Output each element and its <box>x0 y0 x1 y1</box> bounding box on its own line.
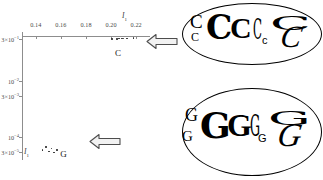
data-point <box>53 152 55 154</box>
data-point <box>51 148 53 150</box>
y-tick-mark <box>19 137 23 138</box>
y-tick-label: 10−2 <box>0 77 19 85</box>
data-point <box>48 151 50 153</box>
letter-glyph-g: G <box>182 129 193 144</box>
x-tick-label: 0.20 <box>105 21 116 28</box>
data-point <box>42 149 44 151</box>
y-tick-label: 3×10−3 <box>0 91 19 99</box>
letter-glyph-g: G <box>227 109 252 141</box>
x-tick-label: 0.22 <box>131 21 142 28</box>
y-tick-label: 3×10−5 <box>0 148 19 156</box>
x-tick-mark <box>86 36 87 39</box>
y-tick-mark <box>19 81 23 82</box>
letter-glyph-c: C <box>190 12 203 31</box>
y-tick-mark <box>19 152 23 153</box>
scatter-plot: 0.140.160.180.200.22 3×10−110−23×10−310−… <box>0 0 180 180</box>
x-tick-mark <box>61 36 62 39</box>
data-point <box>45 146 47 148</box>
left-arrow <box>146 33 178 50</box>
cluster-label-c: C <box>115 48 121 58</box>
x-axis-title-sub: 1 <box>125 17 128 22</box>
letter-glyph-c: C <box>206 11 232 44</box>
callout-bubble-g: GGGGGGGG <box>182 88 322 176</box>
letter-glyph-c: C <box>253 16 262 44</box>
data-point <box>123 38 125 40</box>
letter-glyph-c: c <box>262 35 268 46</box>
data-point <box>133 37 135 39</box>
data-point <box>126 38 128 40</box>
y-tick-mark <box>19 96 23 97</box>
y-axis-title: I1 <box>24 147 29 158</box>
data-point <box>111 38 113 40</box>
y-tick-label: 10−4 <box>0 133 19 141</box>
y-tick-mark <box>19 39 23 40</box>
x-tick-mark <box>136 36 137 39</box>
x-tick-label: 0.16 <box>55 21 66 28</box>
y-axis-title-sub: 1 <box>27 153 30 158</box>
x-tick-mark <box>36 36 37 39</box>
data-point <box>118 38 120 40</box>
callout-bubble-c: CCCCCcCC <box>182 3 322 65</box>
x-tick-label: 0.14 <box>30 21 41 28</box>
cluster-label-g: G <box>60 149 67 159</box>
letter-glyph-c: C <box>191 31 199 43</box>
x-tick-label: 0.18 <box>80 21 91 28</box>
figure-container: 0.140.160.180.200.22 3×10−110−23×10−310−… <box>0 0 323 180</box>
letter-glyph-g: G <box>275 119 304 152</box>
letter-glyph-c: C <box>230 13 252 43</box>
left-arrow <box>89 133 121 150</box>
y-tick-label: 3×10−1 <box>0 35 19 43</box>
data-point <box>116 38 118 40</box>
letter-glyph-g: G <box>258 133 267 144</box>
letter-glyph-g: G <box>185 106 198 124</box>
x-axis-title: I1 <box>122 11 127 22</box>
data-point <box>56 149 58 151</box>
